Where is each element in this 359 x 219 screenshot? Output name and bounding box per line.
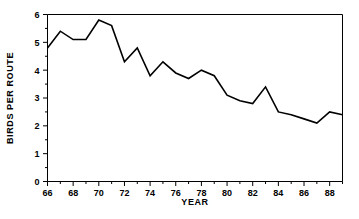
y-tick-label: 6 [34, 10, 39, 20]
x-tick-label: 80 [222, 188, 232, 198]
y-tick-label: 5 [34, 38, 39, 48]
chart-background [0, 0, 359, 219]
x-tick-label: 88 [325, 188, 335, 198]
x-tick-label: 68 [68, 188, 78, 198]
x-tick-label: 74 [145, 188, 155, 198]
y-tick-label: 3 [34, 93, 39, 103]
y-tick-label: 2 [34, 121, 39, 131]
chart-figure: 666870727476788082848688 0123456 YEAR BI… [0, 0, 359, 219]
line-chart: 666870727476788082848688 0123456 YEAR BI… [0, 0, 359, 219]
x-tick-label: 66 [42, 188, 52, 198]
y-axis-title: BIRDS PER ROUTE [5, 52, 15, 144]
x-tick-label: 84 [273, 188, 283, 198]
y-tick-label: 4 [34, 66, 39, 76]
x-axis-title: YEAR [181, 197, 208, 207]
x-tick-label: 72 [119, 188, 129, 198]
x-tick-label: 82 [248, 188, 258, 198]
y-tick-label: 0 [34, 177, 39, 187]
y-tick-label: 1 [34, 149, 39, 159]
x-tick-label: 76 [171, 188, 181, 198]
x-tick-label: 70 [94, 188, 104, 198]
x-tick-label: 86 [299, 188, 309, 198]
